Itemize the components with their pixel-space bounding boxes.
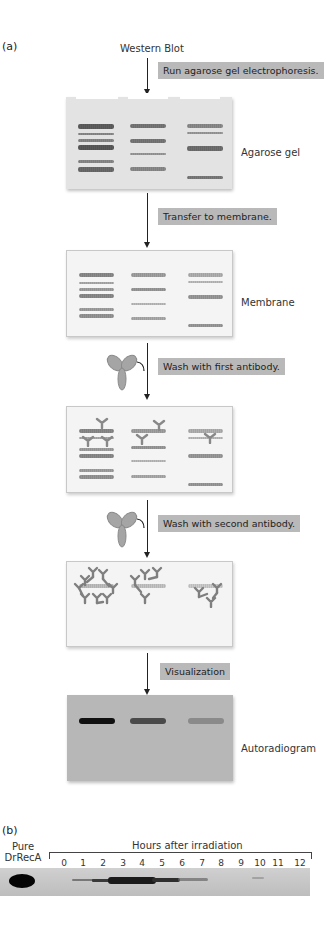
bound-antibody-icon [203, 432, 217, 444]
gel-well [76, 93, 118, 99]
arrowhead-icon [144, 552, 150, 558]
drreca-label: DrRecA [4, 852, 42, 863]
gel-band [187, 132, 223, 134]
hour-label: 4 [134, 858, 150, 868]
panel-a-label: (a) [2, 40, 17, 53]
membrane-band [79, 469, 114, 472]
membrane-band [131, 475, 166, 478]
gel-band [78, 139, 114, 142]
step-run-electrophoresis: Run agarose gel electrophoresis. [158, 62, 324, 79]
membrane-band [79, 429, 114, 433]
antibody-cluster-icon [129, 566, 171, 606]
membrane-band [79, 282, 114, 284]
autoradiogram [67, 695, 233, 781]
gel-band [130, 167, 166, 171]
flow-arrow-line [147, 58, 148, 90]
step-first-antibody: Wash with first antibody. [158, 358, 285, 375]
gel-band [187, 124, 223, 128]
membrane-band [79, 273, 114, 277]
hour-label: 12 [292, 858, 308, 868]
membrane-band [188, 454, 223, 458]
membrane-band [188, 273, 223, 277]
membrane-band [79, 294, 114, 298]
pure-drreca-label: Pure DrRecA [4, 841, 42, 863]
membrane-band [188, 324, 223, 327]
primary-antibody-icon [104, 353, 146, 393]
blot-band-hour-7 [178, 878, 208, 881]
membrane-band [79, 448, 114, 451]
gel-band [187, 146, 223, 151]
flow-arrow-line [147, 343, 148, 395]
western-blot-strip [0, 868, 310, 896]
membrane-band [188, 281, 223, 283]
flow-arrow-line [147, 653, 148, 691]
pure-drreca-band [9, 874, 35, 888]
hour-label: 9 [233, 858, 249, 868]
membrane-band [188, 483, 223, 486]
gel-band [78, 124, 114, 129]
blot-band-hours-3-4 [108, 877, 156, 884]
gel-band [78, 160, 114, 163]
membrane-band [131, 317, 166, 320]
membrane-band [188, 295, 223, 299]
step-visualization: Visualization [160, 663, 230, 680]
hour-label: 10 [252, 858, 268, 868]
gel-band [78, 133, 114, 135]
membrane-band [79, 308, 114, 311]
gel-band [187, 176, 223, 179]
gel-well [180, 93, 220, 99]
blot-band-hour-5-6 [152, 878, 180, 882]
agarose-gel [66, 97, 232, 189]
antibody-cluster-icon [193, 580, 227, 608]
gel-band [78, 167, 114, 172]
hour-label: 1 [75, 858, 91, 868]
label-agarose-gel: Agarose gel [241, 147, 300, 158]
gel-well [128, 93, 168, 99]
autorad-band-strong [79, 718, 115, 724]
gel-band [130, 139, 166, 143]
membrane-band [79, 454, 114, 458]
step-transfer-membrane: Transfer to membrane. [158, 208, 277, 225]
secondary-antibody-icon [104, 510, 146, 550]
label-membrane: Membrane [241, 297, 295, 308]
membrane-band [79, 314, 114, 318]
autorad-band-medium [130, 718, 166, 724]
arrowhead-icon [144, 394, 150, 400]
membrane-band [131, 288, 166, 291]
blot-band-hour-10 [252, 877, 264, 879]
step-second-antibody: Wash with second antibody. [158, 515, 300, 532]
membrane-band [131, 303, 166, 305]
hours-axis-title: Hours after irradiation [132, 840, 243, 851]
bound-antibody-icon [135, 433, 149, 445]
hour-label: 6 [174, 858, 190, 868]
hour-label: 3 [115, 858, 131, 868]
hour-label: 5 [154, 858, 170, 868]
membrane-band [79, 475, 114, 479]
label-autoradiogram: Autoradiogram [241, 743, 316, 754]
membrane-band [131, 460, 166, 462]
bound-antibody-icon [95, 417, 109, 429]
membrane-primary-antibody [66, 406, 233, 493]
antibody-cluster-icon [73, 564, 123, 606]
panel-b-label: (b) [2, 824, 18, 837]
blot-band-hour-1 [72, 879, 94, 881]
bound-antibody-icon [81, 435, 95, 447]
bound-antibody-icon [100, 435, 114, 447]
arrowhead-icon [144, 242, 150, 248]
hour-label: 2 [95, 858, 111, 868]
hour-label: 0 [56, 858, 72, 868]
membrane-band [131, 273, 166, 277]
gel-band [130, 124, 166, 128]
flow-arrow-line [147, 500, 148, 553]
hour-label: 8 [213, 858, 229, 868]
membrane-band [131, 446, 166, 449]
hour-label: 7 [194, 858, 210, 868]
gel-band [78, 145, 114, 150]
membrane [66, 250, 233, 337]
diagram-title: Western Blot [120, 43, 184, 54]
autorad-band-weak [188, 718, 224, 724]
flow-arrow-line [147, 193, 148, 243]
hour-label: 11 [270, 858, 286, 868]
membrane-band [79, 288, 114, 291]
gel-band [130, 153, 166, 155]
